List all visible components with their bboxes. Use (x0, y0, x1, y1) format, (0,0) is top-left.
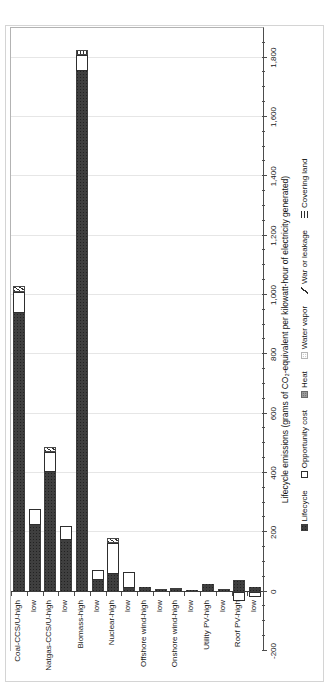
bar-segment-lifecycle (218, 589, 230, 592)
bar-segment-war-or-leakage (107, 538, 119, 543)
category-label: low (60, 600, 70, 680)
category-label: low (29, 600, 39, 680)
horizontal-lines-swatch-icon (301, 211, 308, 218)
bar (60, 28, 72, 651)
minor-tick (262, 487, 265, 488)
category-tick (184, 592, 185, 596)
legend-item-opportunity-cost: Opportunity cost (300, 410, 309, 478)
minor-tick (262, 383, 265, 384)
category-label: low (123, 600, 133, 680)
bar (202, 28, 214, 651)
bar-segment-lifecycle (233, 580, 245, 592)
bar (186, 28, 198, 651)
bar-segment-opportunity-cost (249, 592, 261, 597)
minor-tick (262, 220, 265, 221)
major-tick (262, 57, 267, 58)
bar-segment-lifecycle (76, 71, 88, 592)
bar (92, 28, 104, 651)
legend-item-covering-land: Covering land (300, 159, 309, 218)
category-label: low (249, 600, 259, 680)
major-tick (262, 294, 267, 295)
legend-label: Water vapor (300, 306, 309, 349)
category-tick (27, 592, 28, 596)
minor-tick (262, 635, 265, 636)
category-label: Nuclear-high (107, 600, 117, 680)
bar (218, 28, 230, 651)
minor-tick (262, 131, 265, 132)
category-tick (106, 592, 107, 596)
category-tick (200, 592, 201, 596)
minor-tick (262, 576, 265, 577)
bar-segment-lifecycle (60, 540, 72, 592)
bar-segment-lifecycle (186, 590, 198, 591)
legend-label: Heat (300, 371, 309, 388)
bar-segment-lifecycle (202, 584, 214, 592)
minor-tick (262, 339, 265, 340)
bar-segment-lifecycle (13, 313, 25, 592)
bar-segment-opportunity-cost (29, 510, 41, 525)
bar (170, 28, 182, 651)
bar (155, 28, 167, 651)
bar (107, 28, 119, 651)
minor-tick (262, 205, 265, 206)
category-label: Onshore wind-high (170, 600, 180, 680)
bar (139, 28, 151, 651)
minor-tick (262, 264, 265, 265)
gray-dots-swatch-icon (301, 391, 308, 398)
legend-item-water-vapor: Water vapor (300, 306, 309, 359)
category-label: Utility PV-high (202, 600, 212, 680)
major-tick (262, 591, 267, 592)
category-tick (74, 592, 75, 596)
category-label: Roof PV-high (233, 600, 243, 680)
minor-tick (262, 250, 265, 251)
category-label: low (218, 600, 228, 680)
category-label: Biomass-high (76, 600, 86, 680)
legend-item-war-or-leakage: War or leakage (300, 230, 309, 294)
major-tick (262, 531, 267, 532)
category-label: low (155, 600, 165, 680)
bar (76, 28, 88, 651)
major-tick (262, 650, 267, 651)
bar-segment-lifecycle (139, 587, 151, 592)
value-tick-label: 200 (269, 512, 278, 552)
minor-tick (262, 620, 265, 621)
bar (233, 28, 245, 651)
category-tick (58, 592, 59, 596)
minor-tick (262, 606, 265, 607)
minor-tick (262, 398, 265, 399)
category-tick (263, 592, 264, 596)
legend-label: Opportunity cost (300, 410, 309, 468)
bar-segment-lifecycle (170, 588, 182, 591)
major-tick (262, 353, 267, 354)
value-axis-title: Lifecycle emissions (grams of CO₂-equiva… (280, 28, 290, 651)
minor-tick (262, 309, 265, 310)
bar (123, 28, 135, 651)
bar-segment-opportunity-cost (123, 572, 135, 588)
legend-label: Lifecycle (300, 490, 309, 521)
value-tick-label: 1,600 (269, 97, 278, 137)
bar-segment-lifecycle (123, 588, 135, 592)
bar-segment-war-or-leakage (44, 447, 56, 452)
bar (249, 28, 261, 651)
minor-tick (262, 561, 265, 562)
category-label: low (186, 600, 196, 680)
category-tick (247, 592, 248, 596)
minor-tick (262, 546, 265, 547)
minor-tick (262, 72, 265, 73)
minor-tick (262, 517, 265, 518)
legend-label: War or leakage (300, 230, 309, 284)
minor-tick (262, 502, 265, 503)
category-label: Coal-CCS/U-high (13, 600, 23, 680)
bar-segment-opportunity-cost (107, 543, 119, 574)
bar-segment-lifecycle (155, 589, 167, 592)
category-tick (169, 592, 170, 596)
minor-tick (262, 428, 265, 429)
legend: LifecycleOpportunity costHeatWater vapor… (300, 0, 309, 690)
category-tick (43, 592, 44, 596)
value-tick-label: 0 (269, 572, 278, 612)
minor-tick (262, 86, 265, 87)
category-tick (153, 592, 154, 596)
bar (13, 28, 25, 651)
solid-dark-swatch-icon (301, 524, 308, 531)
minor-tick (262, 279, 265, 280)
